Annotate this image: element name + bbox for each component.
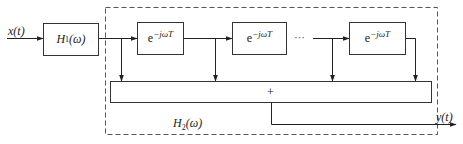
delay-block-2: e−jωT	[232, 22, 287, 55]
input-label: x(t)	[8, 25, 25, 37]
h2-label-var: H	[173, 116, 182, 130]
tap3-arrow	[405, 39, 416, 82]
input-label-arg: (t)	[13, 24, 24, 38]
delay-exponent: −jωT	[370, 29, 390, 39]
output-label-arg: (t)	[441, 110, 452, 124]
output-label: y(t)	[436, 111, 453, 123]
h1-block: H1(ω)	[43, 23, 99, 56]
delay-block-1: e−jωT	[137, 22, 184, 55]
summer-plus-symbol: +	[267, 86, 274, 98]
h2-label-arg: (ω)	[186, 116, 202, 130]
output-arrow	[272, 103, 457, 125]
h2-label: H2(ω)	[173, 117, 202, 132]
h1-label-arg: (ω)	[69, 32, 85, 47]
delay-exponent: −jωT	[252, 29, 272, 39]
ellipsis: ···	[294, 32, 305, 43]
h1-label-var: H	[56, 32, 65, 47]
delay-block-3: e−jωT	[349, 22, 406, 55]
delay-exponent: −jωT	[153, 29, 173, 39]
